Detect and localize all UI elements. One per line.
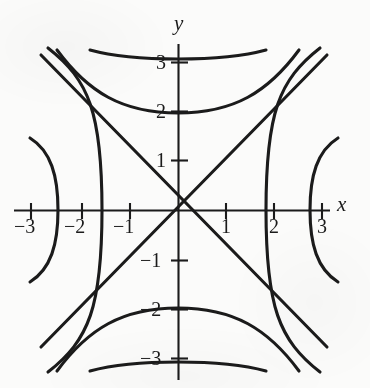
x-tick-label--1: −1: [113, 216, 134, 236]
x-tick-label--3: −3: [14, 216, 35, 236]
contour-plot-canvas: [0, 0, 370, 388]
level-curves-figure: y x −3 −2 −1 1 2 3 3 2 1 −1 −2 −3: [0, 0, 370, 388]
asymptote-lines: [41, 55, 327, 347]
x-tick-label--2: −2: [64, 216, 85, 236]
y-tick-label--3: −3: [140, 348, 161, 368]
y-tick-label-3: 3: [156, 52, 166, 72]
x-axis-label: x: [337, 194, 346, 215]
y-tick-label-2: 2: [156, 101, 166, 121]
y-tick-label--1: −1: [140, 250, 161, 270]
x-tick-label-1: 1: [221, 216, 231, 236]
x-tick-label-3: 3: [317, 216, 327, 236]
y-axis-label: y: [174, 13, 183, 34]
y-tick-label--2: −2: [140, 299, 161, 319]
x-tick-label-2: 2: [269, 216, 279, 236]
y-tick-label-1: 1: [156, 150, 166, 170]
